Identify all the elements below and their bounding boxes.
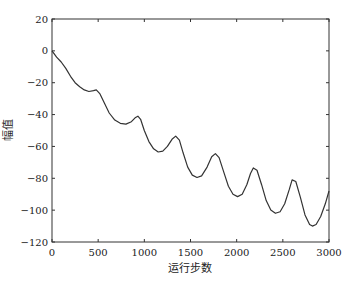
y-tick-label: −100 <box>21 205 48 216</box>
y-tick-label: −120 <box>21 237 48 248</box>
line-chart: 050010001500200025003000 200−20−40−60−80… <box>0 0 348 285</box>
plot-area <box>52 19 329 242</box>
y-tick-label: −60 <box>27 141 48 152</box>
y-tick-label: 20 <box>35 14 48 25</box>
x-tick-label: 1000 <box>132 247 157 258</box>
y-tick-label: −20 <box>27 77 48 88</box>
x-tick-label: 2500 <box>270 247 295 258</box>
y-tick-label: −40 <box>27 109 48 120</box>
x-tick-label: 1500 <box>178 247 203 258</box>
y-axis-label: 幅值 <box>2 119 15 141</box>
x-tick-label: 3000 <box>316 247 341 258</box>
x-axis-label: 运行步数 <box>168 262 212 275</box>
x-tick-label: 2000 <box>224 247 249 258</box>
y-tick-label: −80 <box>27 173 48 184</box>
y-tick-label: 0 <box>42 45 48 56</box>
x-tick-label: 500 <box>89 247 108 258</box>
x-tick-label: 0 <box>49 247 55 258</box>
